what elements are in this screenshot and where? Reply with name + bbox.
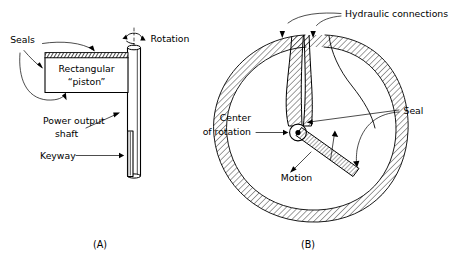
leader-seals-left [24, 51, 43, 69]
leader-seals-top [43, 42, 95, 51]
leader-keyway [76, 153, 124, 158]
panel-a: Seals Rotation Rectangular “piston” Powe… [10, 28, 189, 250]
label-rectangular-piston-line2: “piston” [68, 76, 106, 87]
shaft-top-ellipse [128, 45, 141, 50]
leader-center-of-rotation [256, 130, 288, 136]
label-center-of-rotation-line1: Center [220, 112, 251, 123]
piston-top-seal-strip [45, 53, 128, 58]
label-seals: Seals [10, 34, 35, 45]
label-power-output-shaft-line1: Power output [43, 115, 105, 126]
leader-hydraulic-connections [288, 13, 341, 26]
label-rotation: Rotation [151, 33, 190, 44]
figure-canvas: Seals Rotation Rectangular “piston” Powe… [0, 0, 455, 271]
rotor-vane [296, 128, 359, 177]
caption-panel-b: (B) [301, 239, 315, 250]
rotation-indicator [122, 28, 145, 46]
label-rectangular-piston-line1: Rectangular [58, 63, 114, 74]
label-hydraulic-connections: Hydraulic connections [345, 8, 448, 19]
label-seal: Seal [404, 105, 424, 116]
leader-seal-hub [307, 110, 399, 125]
keyway-slot [128, 131, 133, 177]
label-power-output-shaft-line2: shaft [55, 128, 79, 139]
label-motion: Motion [281, 172, 313, 183]
label-center-of-rotation-line2: of rotation [203, 126, 251, 137]
figure-root: Seals Rotation Rectangular “piston” Powe… [0, 0, 455, 271]
panel-b: Hydraulic connections Center of rotation… [203, 8, 449, 251]
label-keyway: Keyway [40, 150, 76, 161]
caption-panel-a: (A) [93, 239, 107, 250]
